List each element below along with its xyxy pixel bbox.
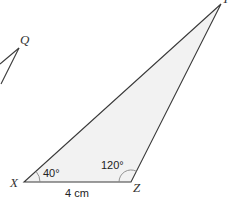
side-q-left-upper: [0, 48, 19, 64]
triangle-xyz-fill: [24, 4, 221, 182]
angle-label-x: 40°: [43, 167, 60, 179]
vertex-label-z: Z: [133, 180, 141, 195]
partial-triangle-pqr: [0, 48, 19, 84]
vertex-label-y: Y: [222, 0, 231, 6]
side-q-left-lower: [1, 48, 19, 84]
side-label-xz: 4 cm: [65, 187, 89, 199]
angle-label-z: 120°: [101, 159, 124, 171]
vertex-label-x: X: [9, 175, 19, 190]
vertex-label-q: Q: [20, 32, 30, 47]
triangle-xyz: [24, 4, 221, 182]
triangle-diagram: X Z Y Q 40° 120° 4 cm: [0, 0, 249, 206]
